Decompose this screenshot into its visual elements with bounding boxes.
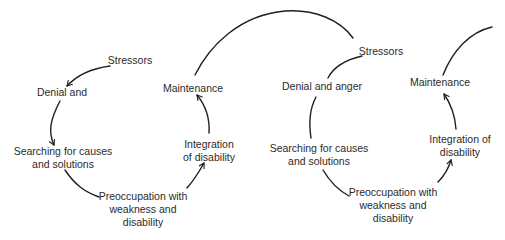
- arrow-stressors-to-denial-1: [67, 66, 110, 86]
- stage-denial-1: Denial and: [37, 86, 87, 99]
- stage-searching-1-line-1: Searching for causes: [14, 145, 113, 158]
- arrow-maintenance-2-continuation: [443, 27, 492, 75]
- stage-preoccupation-2-line-2: weakness and: [349, 199, 438, 212]
- stage-denial-1-line-1: Denial and: [37, 86, 87, 99]
- stage-searching-2: Searching for causes and solutions: [270, 142, 369, 168]
- stage-searching-1-line-2: and solutions: [14, 158, 113, 171]
- stage-integration-2: Integration of disability: [429, 133, 490, 159]
- stage-maintenance-2: Maintenance: [410, 76, 470, 89]
- stage-denial-2-line-1: Denial and anger: [282, 80, 362, 93]
- stage-integration-1: Integration of disability: [183, 138, 235, 164]
- arrow-maintenance-1-to-stressors-2: [195, 11, 353, 75]
- stage-maintenance-2-line-1: Maintenance: [410, 76, 470, 89]
- arrow-preoccupation-to-integration-2: [438, 160, 451, 182]
- stage-maintenance-1-line-1: Maintenance: [163, 82, 223, 95]
- arrow-preoccupation-to-integration-1: [187, 163, 204, 188]
- stage-preoccupation-2-line-3: disability: [349, 212, 438, 225]
- arrow-integration-to-maintenance-1: [197, 95, 209, 133]
- stage-preoccupation-1: Preoccupation with weakness and disabili…: [99, 190, 188, 229]
- stage-searching-2-line-1: Searching for causes: [270, 142, 369, 155]
- stage-maintenance-1: Maintenance: [163, 82, 223, 95]
- stage-integration-1-line-1: Integration: [183, 138, 235, 151]
- arrow-stressors-to-denial-2: [328, 56, 362, 78]
- stage-stressors-1: Stressors: [108, 54, 152, 67]
- stage-stressors-1-line-1: Stressors: [108, 54, 152, 67]
- arrow-denial-to-searching-2: [310, 97, 316, 138]
- stage-preoccupation-1-line-2: weakness and: [99, 203, 188, 216]
- stage-integration-2-line-1: Integration of: [429, 133, 490, 146]
- stage-searching-2-line-2: and solutions: [270, 155, 369, 168]
- stage-integration-1-line-2: of disability: [183, 151, 235, 164]
- stage-integration-2-line-2: disability: [429, 146, 490, 159]
- stage-stressors-2-line-1: Stressors: [359, 45, 403, 58]
- stage-stressors-2: Stressors: [359, 45, 403, 58]
- stage-preoccupation-1-line-1: Preoccupation with: [99, 190, 188, 203]
- arrow-denial-to-searching-1: [51, 101, 60, 145]
- stage-searching-1: Searching for causes and solutions: [14, 145, 113, 171]
- arrow-integration-to-maintenance-2: [444, 94, 456, 129]
- arrow-searching-to-preoccupation-2: [323, 170, 349, 196]
- stage-preoccupation-2-line-1: Preoccupation with: [349, 186, 438, 199]
- arrow-searching-to-preoccupation-1: [65, 170, 99, 197]
- stage-preoccupation-1-line-3: disability: [99, 216, 188, 229]
- stage-preoccupation-2: Preoccupation with weakness and disabili…: [349, 186, 438, 225]
- stage-denial-2: Denial and anger: [282, 80, 362, 93]
